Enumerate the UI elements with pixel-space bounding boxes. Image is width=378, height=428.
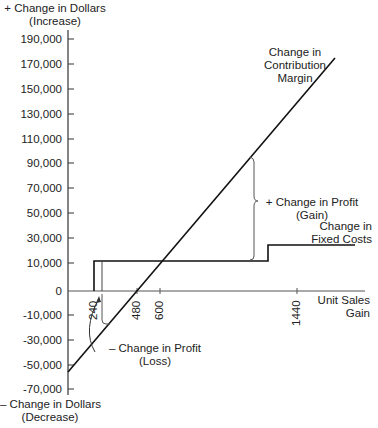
y-tick-label: 10,000 xyxy=(2,257,62,269)
y-tick-label: -70,000 xyxy=(2,383,62,395)
y-tick-label: 90,000 xyxy=(2,157,62,169)
y-tick-label: -10,000 xyxy=(2,309,62,321)
y-tick-label: -50,000 xyxy=(2,359,62,371)
y-axis-title-top: + Change in Dollars (Increase) xyxy=(0,2,110,28)
y-tick-label: 190,000 xyxy=(2,33,62,45)
gain-bracket xyxy=(250,157,258,260)
y-tick-label: 50,000 xyxy=(2,207,62,219)
loss-bracket xyxy=(102,294,110,324)
profit-loss-annotation: – Change in Profit (Loss) xyxy=(100,342,210,368)
fixed-costs-line xyxy=(94,245,355,291)
y-tick-label: 70,000 xyxy=(2,182,62,194)
y-axis-title-bottom: – Change in Dollars (Decrease) xyxy=(0,398,100,424)
y-ticks xyxy=(68,39,74,389)
fixed-costs-label: Change in Fixed Costs xyxy=(280,220,372,246)
x-axis-title: Unit Sales Gain xyxy=(290,294,370,320)
y-tick-label: 130,000 xyxy=(2,108,62,120)
y-tick-label: 0 xyxy=(2,285,62,297)
y-tick-label: 30,000 xyxy=(2,232,62,244)
y-tick-label: -30,000 xyxy=(2,334,62,346)
x-tick-label: 240 xyxy=(87,301,99,320)
x-tick-label: 480 xyxy=(130,301,142,320)
y-tick-label: 110,000 xyxy=(2,133,62,145)
y-tick-label: 150,000 xyxy=(2,83,62,95)
profit-gain-annotation: + Change in Profit (Gain) xyxy=(258,196,366,222)
x-tick-label: 600 xyxy=(153,301,165,320)
y-tick-label: 170,000 xyxy=(2,58,62,70)
contribution-margin-label: Change in Contribution Margin xyxy=(250,46,340,85)
